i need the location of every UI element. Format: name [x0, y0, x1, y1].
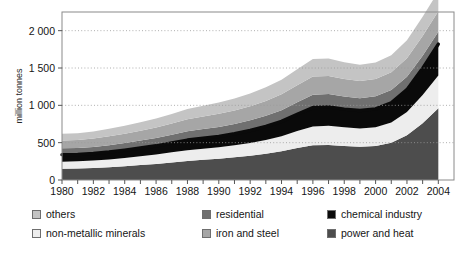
stacked-area-chart: 05001 0001 5002 000 19801982198419861988… — [0, 0, 466, 200]
x-tick-label-1996: 1996 — [301, 185, 325, 197]
legend-label: others — [46, 209, 75, 220]
chart-legend: othersresidentialchemical industrynon-me… — [0, 205, 466, 255]
x-tick-label-1986: 1986 — [144, 185, 168, 197]
legend-label: non-metallic minerals — [46, 228, 145, 239]
legend-swatch-icon — [32, 229, 41, 238]
x-tick-label-2000: 2000 — [364, 185, 388, 197]
legend-label: iron and steel — [216, 228, 279, 239]
legend-swatch-icon — [327, 210, 336, 219]
x-axis: 1980198219841986198819901992199419961998… — [50, 180, 450, 197]
y-tick-label-1500: 1 500 — [29, 62, 55, 74]
legend-label: residential — [216, 209, 264, 220]
legend-swatch-icon — [202, 210, 211, 219]
x-tick-label-1988: 1988 — [176, 185, 200, 197]
y-tick-label-500: 500 — [37, 137, 55, 149]
y-axis: 05001 0001 5002 000 — [29, 25, 62, 186]
x-tick-label-1998: 1998 — [333, 185, 357, 197]
legend-item-chemical-industry[interactable]: chemical industry — [327, 205, 466, 224]
legend-item-iron-and-steel[interactable]: iron and steel — [202, 224, 327, 243]
legend-swatch-icon — [327, 229, 336, 238]
x-tick-label-1994: 1994 — [270, 185, 294, 197]
legend-label: power and heat — [341, 228, 413, 239]
legend-label: chemical industry — [341, 209, 422, 220]
x-tick-label-1982: 1982 — [82, 185, 106, 197]
x-tick-label-1980: 1980 — [50, 185, 74, 197]
y-axis-title: million tonnes — [14, 68, 24, 124]
chart-figure: 05001 0001 5002 000 19801982198419861988… — [0, 0, 466, 258]
legend-item-others[interactable]: others — [32, 205, 202, 224]
x-tick-label-2002: 2002 — [395, 185, 419, 197]
x-tick-label-2004: 2004 — [427, 185, 451, 197]
legend-item-power-and-heat[interactable]: power and heat — [327, 224, 466, 243]
x-tick-label-1984: 1984 — [113, 185, 137, 197]
legend-swatch-icon — [202, 229, 211, 238]
x-tick-label-1992: 1992 — [238, 185, 262, 197]
y-tick-label-2000: 2 000 — [29, 25, 55, 37]
legend-item-non-metallic-minerals[interactable]: non-metallic minerals — [32, 224, 202, 243]
y-tick-label-1000: 1 000 — [29, 99, 55, 111]
legend-item-residential[interactable]: residential — [202, 205, 327, 224]
legend-swatch-icon — [32, 210, 41, 219]
x-tick-label-1990: 1990 — [207, 185, 231, 197]
